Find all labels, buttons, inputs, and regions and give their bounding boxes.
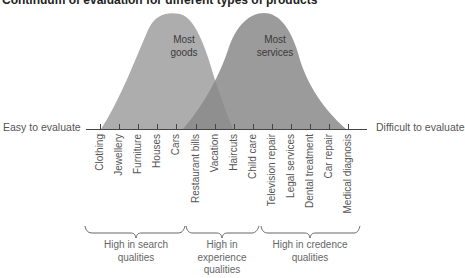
braces bbox=[85, 226, 360, 238]
tick-label-clothing: Clothing bbox=[94, 134, 106, 171]
tick-label-child-care: Child care bbox=[247, 134, 259, 179]
tick-label-furniture: Furniture bbox=[132, 134, 144, 174]
tick-label-jewellery: Jewellery bbox=[113, 134, 125, 176]
group-label-search: High in search qualities bbox=[91, 239, 181, 264]
tick-label-restaurant-bills: Restaurant bills bbox=[190, 134, 202, 203]
group-label-experience: High in experience qualities bbox=[192, 239, 252, 277]
brace-experience bbox=[186, 226, 259, 238]
brace-search bbox=[85, 226, 185, 238]
tick-label-haircuts: Haircuts bbox=[228, 134, 240, 171]
easy-to-evaluate-label: Easy to evaluate bbox=[3, 121, 81, 133]
difficult-to-evaluate-label: Difficult to evaluate bbox=[376, 121, 465, 133]
tick-label-legal-services: Legal services bbox=[285, 134, 297, 198]
tick-label-houses: Houses bbox=[151, 134, 163, 168]
group-label-credence: High in credence qualities bbox=[262, 239, 358, 264]
tick-label-car-repair: Car repair bbox=[323, 134, 335, 178]
most-goods-label: Most goods bbox=[164, 33, 204, 59]
tick-label-television-repair: Television repair bbox=[266, 134, 278, 206]
tick-label-medical-diagnosis: Medical diagnosis bbox=[342, 134, 354, 214]
tick-label-vacation: Vacation bbox=[209, 134, 221, 172]
tick-label-cars: Cars bbox=[170, 134, 182, 155]
brace-credence bbox=[261, 226, 360, 238]
tick-label-dental-treatment: Dental treatment bbox=[304, 134, 316, 208]
most-services-label: Most services bbox=[250, 33, 300, 59]
